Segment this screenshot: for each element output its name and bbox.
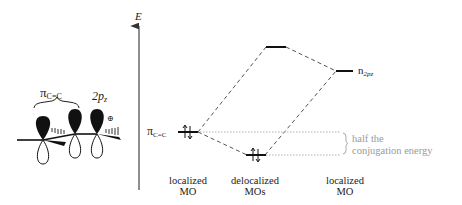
annotation-line-1: half the — [352, 133, 384, 144]
reference-dotted-lines — [200, 132, 340, 155]
correlation-lines — [198, 47, 336, 155]
column-3-line-1: localized — [326, 175, 365, 186]
energy-levels: πC=C n2pz — [147, 47, 374, 162]
column-labels: localized MO delocalized MOs localized M… — [169, 175, 365, 197]
p-orbital-2-bottom-lobe — [69, 134, 80, 158]
p-orbital-1-bottom-lobe — [37, 140, 48, 164]
annotation-line-2: conjugation energy — [352, 145, 433, 156]
mo-diagram: πC=C 2pz ⊕ E πC=C — [0, 0, 462, 205]
positive-charge-icon: ⊕ — [107, 114, 114, 123]
n-2pz-label: n2pz — [358, 64, 374, 78]
conjugation-energy-annotation: half the conjugation energy — [343, 133, 433, 156]
p-orbital-3-bottom-lobe — [91, 134, 102, 158]
energy-axis: E — [134, 10, 142, 190]
2pz-label: 2pz — [92, 89, 108, 104]
annotation-brace — [343, 133, 348, 154]
pi-cc-level-label: πC=C — [147, 124, 167, 139]
column-1-line-2: MO — [180, 186, 197, 197]
p-orbital-2-top-lobe — [68, 109, 82, 134]
column-2-line-2: MOs — [244, 186, 265, 197]
allyl-cation-orbital-drawing: πC=C 2pz ⊕ — [17, 85, 121, 164]
column-3-line-2: MO — [337, 186, 354, 197]
pi-cc-label: πC=C — [40, 85, 62, 101]
column-1-line-1: localized — [169, 175, 208, 186]
energy-axis-label: E — [134, 10, 142, 22]
p-orbital-1-top-lobe — [36, 116, 50, 140]
p-orbital-3-top-lobe — [90, 109, 104, 134]
column-2-line-1: delocalized — [231, 175, 280, 186]
